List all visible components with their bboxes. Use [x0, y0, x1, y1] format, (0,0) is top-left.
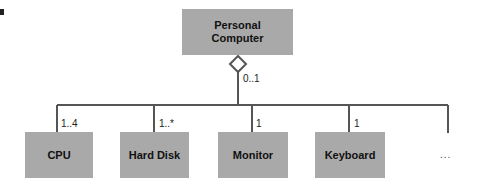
- child-label: Monitor: [233, 149, 273, 162]
- more-ellipsis: ...: [440, 149, 451, 160]
- child-box-hard-disk: Hard Disk: [120, 132, 189, 178]
- child-multiplicity: 1..4: [61, 118, 78, 129]
- child-box-keyboard: Keyboard: [315, 132, 385, 178]
- child-label: Keyboard: [325, 149, 376, 162]
- child-box-cpu: CPU: [25, 132, 93, 178]
- child-multiplicity: 1: [354, 118, 360, 129]
- child-multiplicity: 1..*: [159, 118, 174, 129]
- parent-label-line2: Computer: [212, 32, 264, 45]
- parent-multiplicity: 0..1: [243, 73, 260, 84]
- child-multiplicity: 1: [256, 118, 262, 129]
- parent-label-line1: Personal: [214, 19, 260, 32]
- child-label: Hard Disk: [129, 149, 180, 162]
- child-box-monitor: Monitor: [218, 132, 288, 178]
- child-label: CPU: [47, 149, 70, 162]
- parent-class-box: Personal Computer: [182, 9, 293, 55]
- aggregation-diamond-icon: [230, 56, 246, 72]
